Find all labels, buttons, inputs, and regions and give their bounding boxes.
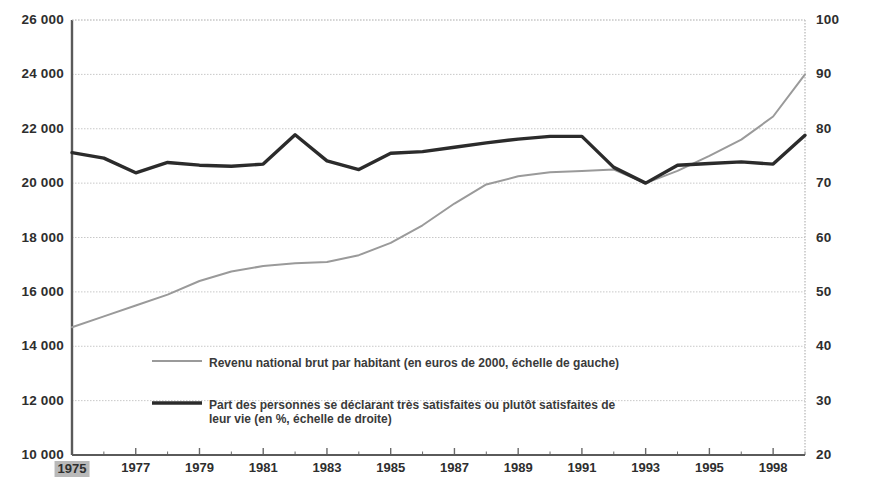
left-axis-tick-label: 26 000 — [22, 13, 65, 27]
x-axis-tick-label: 1979 — [185, 461, 214, 474]
series-line-part-personnes-satisfaites — [72, 135, 805, 183]
x-axis-tick-label: 1985 — [376, 461, 405, 474]
x-axis-tick-label: 1975 — [55, 461, 90, 477]
x-axis-tick-label: 1991 — [567, 461, 596, 474]
x-axis-tick-label: 1998 — [759, 461, 788, 474]
right-axis-tick-label: 60 — [816, 231, 831, 245]
legend-label-revenu-national-brut: Revenu national brut par habitant (en eu… — [209, 356, 619, 370]
left-axis-tick-label: 20 000 — [22, 176, 65, 190]
x-axis-tick-label: 1995 — [695, 461, 724, 474]
right-axis-tick-label: 100 — [816, 13, 839, 27]
left-axis-tick-label: 16 000 — [22, 285, 65, 299]
left-axis-tick-label: 14 000 — [22, 339, 65, 353]
x-axis-tick-label: 1977 — [121, 461, 150, 474]
series-line-revenu-national-brut — [72, 74, 805, 327]
right-axis-tick-label: 40 — [816, 339, 831, 353]
right-axis-tick-label: 30 — [816, 394, 831, 408]
legend-label-part-personnes-satisfaites: Part des personnes se déclarant très sat… — [209, 398, 639, 426]
right-axis-tick-label: 50 — [816, 285, 831, 299]
chart-figure: 26 00024 00022 00020 00018 00016 00014 0… — [0, 0, 869, 488]
x-axis-tick-label: 1987 — [440, 461, 469, 474]
legend-swatches-group — [152, 361, 202, 403]
right-axis-tick-label: 90 — [816, 67, 831, 81]
x-axis-ticks-group — [72, 448, 805, 455]
left-axis-tick-label: 18 000 — [22, 231, 65, 245]
right-axis-tick-label: 70 — [816, 176, 831, 190]
x-axis-tick-label: 1993 — [631, 461, 660, 474]
gridlines-group — [72, 20, 805, 455]
series-lines-group — [72, 74, 805, 327]
x-axis-tick-label: 1983 — [312, 461, 341, 474]
left-axis-tick-label: 24 000 — [22, 67, 65, 81]
x-axis-tick-label: 1989 — [504, 461, 533, 474]
x-axis-tick-label: 1981 — [249, 461, 278, 474]
left-axis-tick-label: 22 000 — [22, 122, 65, 136]
right-axis-tick-label: 80 — [816, 122, 831, 136]
left-axis-tick-label: 10 000 — [22, 448, 65, 462]
right-axis-tick-label: 20 — [816, 448, 831, 462]
left-axis-tick-label: 12 000 — [22, 394, 65, 408]
